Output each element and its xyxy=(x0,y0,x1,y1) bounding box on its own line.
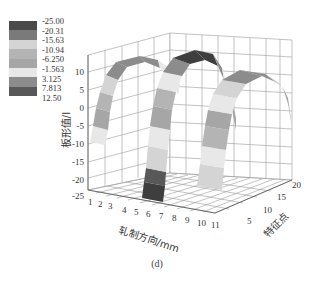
legend-swatch xyxy=(9,59,37,68)
svg-text:-10: -10 xyxy=(72,139,84,149)
svg-text:5: 5 xyxy=(134,207,139,217)
z-axis-ticks: 10 5 0 -5 -10 -15 -20 -25 xyxy=(72,67,85,201)
x-axis-label: 轧制方向/mm xyxy=(117,223,180,254)
svg-text:5: 5 xyxy=(80,85,85,95)
svg-text:11: 11 xyxy=(211,220,220,230)
legend-swatch xyxy=(9,40,37,49)
svg-text:20: 20 xyxy=(292,180,302,190)
svg-text:2: 2 xyxy=(98,199,103,209)
svg-text:0: 0 xyxy=(80,103,85,113)
svg-text:9: 9 xyxy=(185,215,190,225)
color-legend xyxy=(9,21,37,96)
svg-text:7: 7 xyxy=(159,211,164,221)
svg-text:10: 10 xyxy=(263,205,273,215)
legend-swatch xyxy=(9,68,37,77)
svg-text:-25: -25 xyxy=(72,191,84,201)
svg-text:10: 10 xyxy=(75,67,85,77)
svg-text:-5: -5 xyxy=(77,121,85,131)
z-axis-label: 板形值/I xyxy=(60,112,72,148)
svg-text:-15: -15 xyxy=(72,157,84,167)
legend-labels: -25.00 -20.31 -15.63 -10.94 -6.250 -1.56… xyxy=(42,17,64,103)
legend-level: 12.50 xyxy=(42,94,64,104)
legend-swatch xyxy=(9,49,37,58)
svg-text:-20: -20 xyxy=(72,175,84,185)
svg-text:10: 10 xyxy=(197,218,207,228)
legend-swatch xyxy=(9,77,37,86)
svg-text:3: 3 xyxy=(108,201,113,211)
svg-text:15: 15 xyxy=(277,192,287,202)
svg-text:1: 1 xyxy=(88,197,93,207)
svg-text:6: 6 xyxy=(146,209,151,219)
legend-swatch xyxy=(9,30,37,39)
legend-swatch xyxy=(9,21,37,30)
svg-text:4: 4 xyxy=(122,205,127,215)
svg-text:8: 8 xyxy=(172,213,177,223)
legend-swatch xyxy=(9,87,37,96)
svg-text:5: 5 xyxy=(247,216,252,226)
figure-caption: (d) xyxy=(0,258,314,269)
